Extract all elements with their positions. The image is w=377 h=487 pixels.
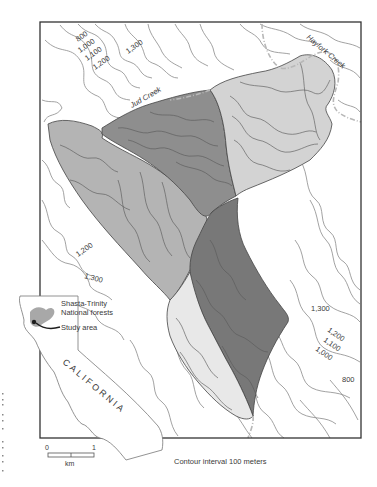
contour-interval-caption: Contour interval 100 meters xyxy=(174,457,267,466)
svg-text:1,300: 1,300 xyxy=(311,304,330,313)
legend-forests-line1: Shasta-Trinity xyxy=(61,299,107,308)
legend-forests-line2: National forests xyxy=(61,308,113,317)
watershed-map: 800 1,000 1,100 1,200 1,300 1,200 1,300 … xyxy=(0,0,377,487)
svg-text:800: 800 xyxy=(342,375,355,384)
legend-study-area: Study area xyxy=(61,323,98,332)
svg-text:1: 1 xyxy=(92,444,96,451)
svg-text:0: 0 xyxy=(45,444,49,451)
svg-text:km: km xyxy=(65,460,75,467)
study-area-marker xyxy=(32,320,36,324)
